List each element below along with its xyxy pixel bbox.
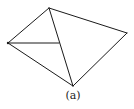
vertex-left-dot [7,42,9,44]
edge-left-top [8,8,49,43]
diagonal-top-bottom [49,8,73,86]
edge-bottom-left [8,43,73,86]
edge-top-right [49,8,127,33]
edge-right-bottom [73,33,127,86]
figure-caption: (a) [60,89,86,102]
